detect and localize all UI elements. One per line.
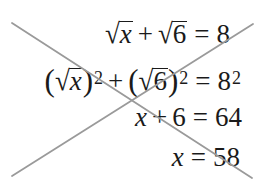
equation-row-4: x = 58 bbox=[172, 144, 240, 171]
rhs-value: 64 bbox=[215, 104, 242, 131]
equals-sign: = bbox=[194, 21, 209, 48]
math-work-image: √x + √6 = 8 ( √x ) 2 + ( √6 ) 2 = 8 2 x … bbox=[0, 0, 257, 188]
equation-row-2: ( √x ) 2 + ( √6 ) 2 = 8 2 bbox=[45, 66, 241, 95]
close-paren: ) bbox=[168, 67, 178, 94]
rhs-value: 8 bbox=[217, 21, 231, 48]
radicand: x bbox=[69, 68, 83, 93]
sqrt-6: √6 bbox=[139, 68, 168, 95]
equals-sign: = bbox=[191, 144, 206, 171]
equals-sign: = bbox=[195, 68, 210, 95]
rhs-base: 8 bbox=[218, 68, 232, 95]
plus-operator: + bbox=[152, 104, 167, 131]
close-paren: ) bbox=[83, 67, 93, 94]
variable-x: x bbox=[135, 104, 147, 131]
plus-operator: + bbox=[138, 21, 153, 48]
constant: 6 bbox=[172, 104, 186, 131]
rhs-value: 58 bbox=[213, 144, 240, 171]
sqrt-x: √x bbox=[55, 68, 83, 95]
equals-sign: = bbox=[193, 104, 208, 131]
plus-operator: + bbox=[108, 68, 123, 95]
radicand: x bbox=[119, 21, 133, 46]
sqrt-6: √6 bbox=[158, 21, 187, 48]
equation-row-3: x + 6 = 64 bbox=[135, 104, 242, 131]
radicand: 6 bbox=[152, 68, 168, 93]
radical-symbol: √ bbox=[55, 67, 70, 95]
sqrt-x: √x bbox=[105, 21, 133, 48]
open-paren: ( bbox=[128, 67, 138, 94]
equation-row-1: √x + √6 = 8 bbox=[105, 21, 230, 48]
variable-x: x bbox=[172, 144, 184, 171]
open-paren: ( bbox=[45, 67, 55, 94]
radical-symbol: √ bbox=[158, 20, 173, 48]
radical-symbol: √ bbox=[105, 20, 120, 48]
radicand: 6 bbox=[172, 21, 188, 46]
radical-symbol: √ bbox=[139, 67, 154, 95]
